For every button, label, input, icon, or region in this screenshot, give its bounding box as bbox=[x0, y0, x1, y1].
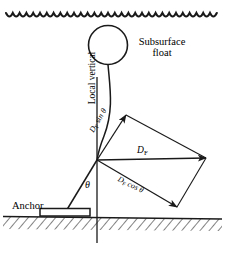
anchor-block bbox=[40, 209, 90, 217]
label-vector-df: DF bbox=[137, 146, 148, 156]
vector-df bbox=[97, 158, 206, 160]
label-anchor: Anchor bbox=[12, 200, 44, 211]
label-local-vertical: Local vertical bbox=[88, 48, 98, 108]
label-angle-theta: θ bbox=[85, 180, 90, 191]
label-vector-df-symbol: D bbox=[137, 145, 144, 155]
seabed bbox=[3, 217, 222, 232]
water-surface bbox=[6, 13, 217, 17]
label-vector-df-subscript: F bbox=[144, 149, 148, 156]
label-subsurface-float: Subsurface float bbox=[131, 36, 193, 58]
figure-container: Subsurface float Local vertical Anchor θ… bbox=[0, 0, 225, 257]
